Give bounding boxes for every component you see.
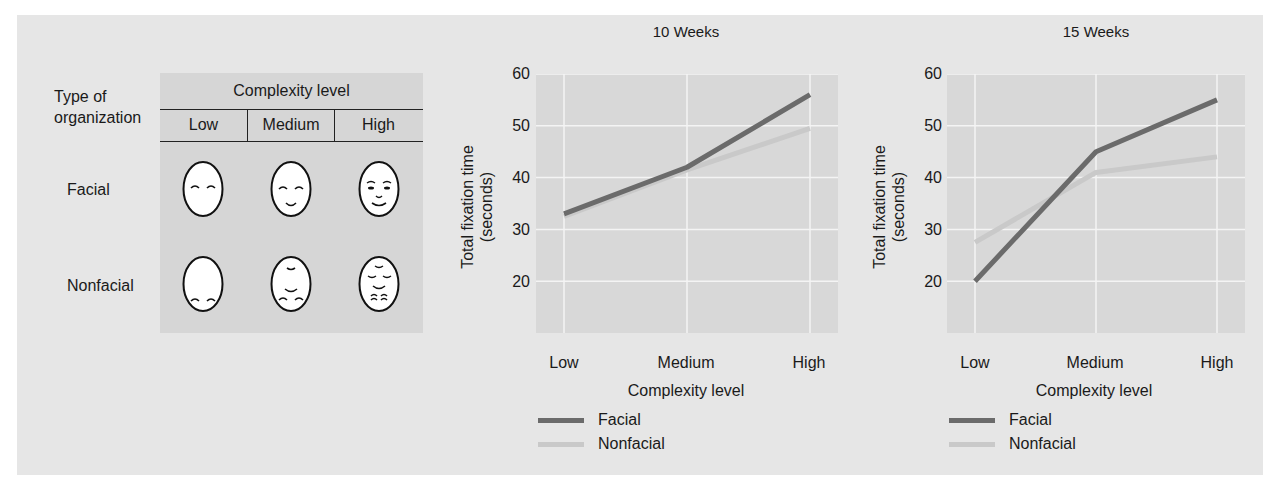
x-tick-medium: Medium (1055, 353, 1135, 372)
line-chart-15-weeks (947, 74, 1245, 333)
x-tick-medium: Medium (646, 353, 726, 372)
y-axis-title-15-weeks: Total fixation time (seconds) (870, 117, 908, 297)
x-tick-high: High (769, 353, 849, 372)
x-tick-low: Low (524, 353, 604, 372)
legend-item-nonfacial: Nonfacial (949, 432, 1076, 456)
line-chart-10-weeks (536, 74, 838, 333)
chart-title-15-weeks: 15 Weeks (996, 22, 1196, 41)
facial-low-face-icon (184, 162, 223, 216)
y-tick-40: 40 (912, 168, 942, 187)
legend-15-weeks: Facial Nonfacial (949, 408, 1076, 456)
x-tick-high: High (1177, 353, 1257, 372)
x-axis-title-15-weeks: Complexity level (994, 381, 1194, 400)
facial-medium-face-icon (272, 162, 311, 216)
nonfacial-medium-face-icon (272, 257, 311, 311)
y-tick-30: 30 (500, 220, 530, 239)
x-tick-low: Low (935, 353, 1015, 372)
facial-high-face-icon (360, 162, 399, 216)
legend-swatch-facial (949, 418, 995, 423)
y-axis-title-line2: (seconds) (477, 117, 496, 297)
y-tick-30: 30 (912, 220, 942, 239)
x-axis-title-10-weeks: Complexity level (586, 381, 786, 400)
y-tick-20: 20 (912, 272, 942, 291)
y-axis-title-line1: Total fixation time (870, 117, 889, 297)
legend-label-facial: Facial (598, 411, 641, 429)
legend-swatch-nonfacial (538, 442, 584, 447)
y-tick-50: 50 (500, 116, 530, 135)
legend-10-weeks: Facial Nonfacial (538, 408, 665, 456)
y-tick-60: 60 (500, 64, 530, 83)
y-tick-60: 60 (912, 64, 942, 83)
legend-label-nonfacial: Nonfacial (598, 435, 665, 453)
legend-item-facial: Facial (949, 408, 1076, 432)
chart-title-10-weeks: 10 Weeks (586, 22, 786, 41)
y-axis-title-line2: (seconds) (889, 117, 908, 297)
legend-swatch-nonfacial (949, 442, 995, 447)
y-axis-title-line1: Total fixation time (458, 117, 477, 297)
legend-item-facial: Facial (538, 408, 665, 432)
nonfacial-high-face-icon (360, 257, 399, 311)
y-tick-20: 20 (500, 272, 530, 291)
legend-label-nonfacial: Nonfacial (1009, 435, 1076, 453)
legend-swatch-facial (538, 418, 584, 423)
legend-label-facial: Facial (1009, 411, 1052, 429)
nonfacial-low-face-icon (184, 257, 223, 311)
legend-item-nonfacial: Nonfacial (538, 432, 665, 456)
y-axis-title-10-weeks: Total fixation time (seconds) (458, 117, 496, 297)
y-tick-50: 50 (912, 116, 942, 135)
y-tick-40: 40 (500, 168, 530, 187)
